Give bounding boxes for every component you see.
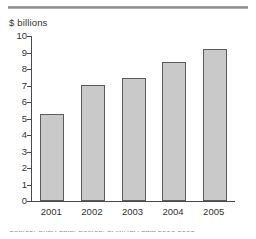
y-axis-tick-labels: 012345678910 <box>0 36 27 202</box>
x-axis-tick-label: 2002 <box>72 206 113 217</box>
x-axis-tick-label: 2003 <box>112 206 153 217</box>
y-axis-tick-label: 6 <box>7 96 27 107</box>
top-divider-rule <box>8 6 248 9</box>
caption-text: Source: Chart data. Source: SAMHSA data … <box>9 231 195 234</box>
bar-2002 <box>81 85 105 201</box>
bar-2005 <box>203 49 227 201</box>
y-axis-unit-label: $ billions <box>9 17 47 28</box>
y-axis-tick-label: 5 <box>7 113 27 124</box>
bar-2001 <box>40 114 64 201</box>
plot-area <box>31 36 235 202</box>
y-axis-tick-label: 10 <box>7 30 27 41</box>
x-axis-tick-label: 2005 <box>193 206 234 217</box>
y-axis-tick-label: 2 <box>7 162 27 173</box>
bar-series <box>32 36 235 202</box>
x-axis-tick-label: 2001 <box>31 206 72 217</box>
y-axis-tick-label: 9 <box>7 47 27 58</box>
x-axis-tick-labels: 20012002200320042005 <box>31 206 235 220</box>
x-axis-tick-label: 2004 <box>153 206 194 217</box>
bar-2003 <box>122 78 146 201</box>
y-axis-tick-label: 8 <box>7 63 27 74</box>
y-axis-tick-label: 4 <box>7 129 27 140</box>
y-axis-tick-label: 3 <box>7 146 27 157</box>
y-axis-tick-label: 0 <box>7 195 27 206</box>
bottom-caption-clipped: Source: Chart data. Source: SAMHSA data … <box>0 231 256 239</box>
y-axis-tick-label: 1 <box>7 179 27 190</box>
bar-2004 <box>162 62 186 201</box>
bar-chart-figure: $ billions 012345678910 2001200220032004… <box>0 0 256 239</box>
y-axis-tick-label: 7 <box>7 80 27 91</box>
